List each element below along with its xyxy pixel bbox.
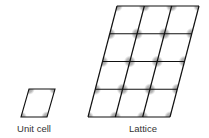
unit-cell [15, 83, 61, 123]
unit-cell-outline [21, 89, 55, 117]
unit-cell-label: Unit cell [17, 123, 51, 134]
lattice-label: Lattice [129, 123, 157, 134]
lattice [82, 0, 205, 123]
lattice-diagram [0, 0, 209, 138]
